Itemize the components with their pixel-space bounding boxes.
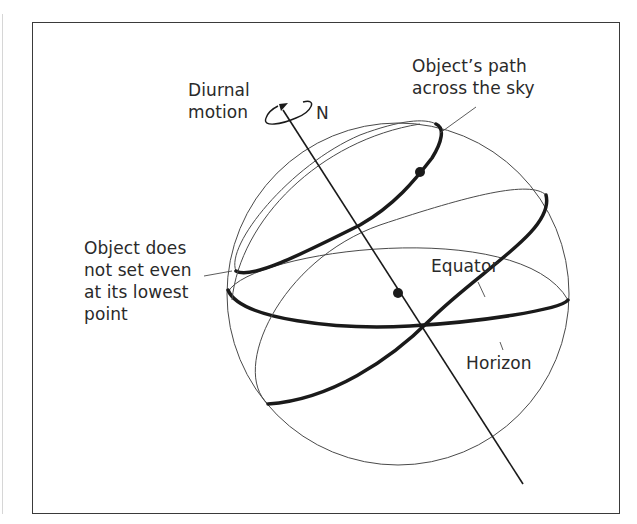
path-label-line1: Object’s path xyxy=(412,56,527,77)
inner-thin-arc xyxy=(232,124,420,300)
path-back-arc xyxy=(235,121,436,271)
diurnal-rotation-icon xyxy=(265,101,311,124)
diurnal-label-line2: motion xyxy=(188,102,248,123)
nonset-label-line4: point xyxy=(84,304,128,325)
nonset-label-line3: at its lowest xyxy=(84,282,188,303)
path-front-arc xyxy=(236,124,441,273)
diurnal-label-line1: Diurnal xyxy=(188,80,250,101)
polar-axis xyxy=(283,110,523,484)
equator-label: Equator xyxy=(431,256,498,277)
nonset-label-line1: Object does xyxy=(84,238,186,259)
path-leader-line xyxy=(440,107,476,133)
equator-leader-line xyxy=(478,282,485,297)
horizon-label: Horizon xyxy=(466,353,532,374)
north-label: N xyxy=(316,103,329,124)
object-position-dot xyxy=(415,167,425,177)
horizon-leader-line xyxy=(500,342,503,350)
nonset-label-line2: not set even xyxy=(84,260,192,281)
sphere-center-dot xyxy=(393,288,403,298)
path-label-line2: across the sky xyxy=(412,78,535,99)
